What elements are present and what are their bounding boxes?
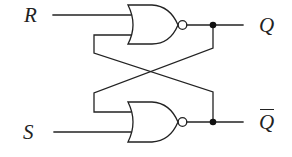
q-output-label: Q [259,15,274,36]
r-input-label: R [24,5,37,26]
qbar-text: Q [259,110,274,134]
qbar-junction-dot [210,119,217,126]
qbar-output-label: Q [259,112,274,133]
nor-gate-bottom [128,102,178,142]
s-input-label: S [23,122,34,143]
nor-gate-top [128,5,178,44]
nor-top-inversion-bubble [178,21,187,30]
q-junction-dot [210,22,217,29]
sr-latch-diagram: R S Q Q [0,0,292,157]
circuit-svg [0,0,292,157]
overbar [260,109,274,110]
nor-bottom-inversion-bubble [178,118,187,127]
